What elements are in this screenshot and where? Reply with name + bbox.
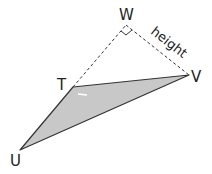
triangle-diagram: W V T U height [0,0,212,174]
right-angle-marker [121,30,132,35]
label-v: V [191,68,202,86]
tick-mark [78,94,87,95]
label-w: W [119,6,134,24]
label-u: U [10,152,21,170]
label-t: T [56,76,67,94]
shaded-triangle-tuv [20,75,189,150]
label-height: height [148,24,190,61]
dashed-extension-tw [73,25,126,87]
